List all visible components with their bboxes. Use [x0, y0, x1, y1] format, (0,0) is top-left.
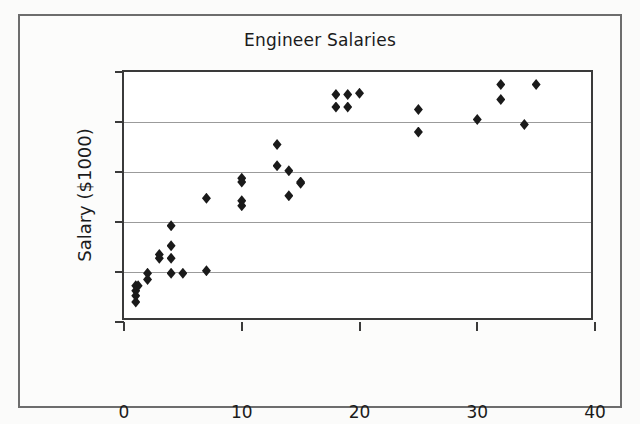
data-point — [178, 268, 187, 279]
data-point — [520, 119, 529, 130]
gridline — [124, 122, 591, 123]
data-point — [202, 265, 211, 276]
y-tick-mark — [115, 221, 124, 223]
data-point — [273, 139, 282, 150]
y-tick-mark — [115, 171, 124, 173]
data-point — [355, 88, 364, 99]
data-point — [167, 240, 176, 251]
data-point — [496, 79, 505, 90]
x-tick-mark — [476, 322, 478, 331]
data-point — [414, 127, 423, 138]
data-point — [414, 104, 423, 115]
x-tick-mark — [123, 322, 125, 331]
data-point — [167, 253, 176, 264]
data-point — [473, 114, 482, 125]
data-point — [343, 89, 352, 100]
data-point — [202, 193, 211, 204]
data-point — [331, 89, 340, 100]
y-axis-label: Salary ($1000) — [74, 128, 95, 262]
x-tick-label: 0 — [119, 402, 130, 422]
x-tick-label: 10 — [231, 402, 253, 422]
data-point — [331, 102, 340, 113]
gridline — [124, 222, 591, 223]
data-point — [532, 79, 541, 90]
x-tick-mark — [594, 322, 596, 331]
y-tick-mark — [115, 121, 124, 123]
x-tick-label: 30 — [466, 402, 488, 422]
data-point — [496, 94, 505, 105]
figure-container: Engineer Salaries 406080100120140 010203… — [0, 0, 640, 424]
data-point — [343, 102, 352, 113]
page-title: Engineer Salaries — [0, 30, 640, 50]
plot-area: 406080100120140 010203040 Salary ($1000)… — [122, 70, 593, 320]
data-point — [284, 190, 293, 201]
data-point — [284, 165, 293, 176]
data-point — [296, 178, 305, 189]
gridline — [124, 172, 591, 173]
x-tick-label: 40 — [584, 402, 606, 422]
data-point — [167, 268, 176, 279]
data-point — [273, 160, 282, 171]
data-point — [143, 268, 152, 279]
x-tick-label: 20 — [349, 402, 371, 422]
y-tick-mark — [115, 271, 124, 273]
x-tick-mark — [359, 322, 361, 331]
x-tick-mark — [241, 322, 243, 331]
gridline — [124, 272, 591, 273]
y-tick-mark — [115, 71, 124, 73]
